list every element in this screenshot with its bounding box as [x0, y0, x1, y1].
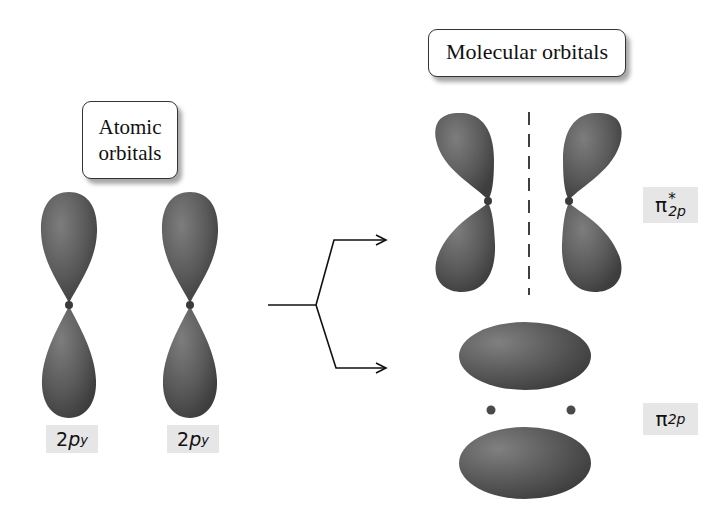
mo-lobe-left-bottom	[436, 203, 496, 292]
orbital-diagram-canvas	[0, 0, 728, 521]
callout-line-1: Atomic	[83, 114, 177, 140]
orbital-lobe-bottom	[163, 306, 217, 418]
branch-arrows	[268, 235, 386, 373]
label-p: p	[189, 428, 201, 450]
label-pi-2p: π2p	[643, 403, 698, 435]
callout-line-2: orbitals	[83, 140, 177, 166]
callout-text: Molecular orbitals	[446, 39, 608, 64]
mo-lobe-top	[459, 322, 591, 390]
nucleus-dot	[487, 406, 496, 415]
mo-lobe-left-top	[435, 113, 494, 200]
orbital-lobe-top	[162, 192, 218, 303]
label-2py-right: 2py	[167, 425, 219, 453]
label-principal-number: 2	[177, 428, 189, 450]
label-principal-number: 2	[56, 428, 68, 450]
atomic-orbital-2py-right	[162, 192, 218, 418]
mo-lobe-right-top	[563, 113, 622, 200]
bonding-pi-orbital	[459, 322, 591, 499]
nucleus-dot	[484, 197, 492, 205]
pi-symbol: π	[655, 193, 667, 217]
arrow-to-bonding	[316, 305, 385, 368]
label-p: p	[68, 428, 80, 450]
molecular-orbitals-callout: Molecular orbitals	[428, 29, 626, 77]
arrow-to-antibonding	[316, 240, 385, 305]
nucleus-dot	[567, 406, 576, 415]
orbital-lobe-top	[41, 192, 97, 303]
nucleus-dot	[186, 301, 194, 309]
atomic-orbital-2py-left	[41, 192, 97, 418]
mo-lobe-bottom	[459, 427, 591, 499]
nucleus-dot	[65, 301, 73, 309]
mo-lobe-right-bottom	[562, 203, 622, 292]
pi-symbol: π	[656, 407, 668, 431]
label-subscript: 2p	[668, 411, 686, 427]
label-pi-star-2p: π * 2p	[643, 187, 698, 223]
atomic-orbitals-callout: Atomic orbitals	[82, 101, 178, 179]
label-2py-left: 2py	[46, 425, 98, 453]
nucleus-dot	[565, 197, 573, 205]
label-subscript: y	[80, 432, 88, 447]
antibonding-pi-star-orbital	[435, 112, 621, 295]
label-subscript: y	[201, 432, 209, 447]
orbital-lobe-bottom	[42, 306, 96, 418]
label-subscript: 2p	[668, 205, 686, 217]
